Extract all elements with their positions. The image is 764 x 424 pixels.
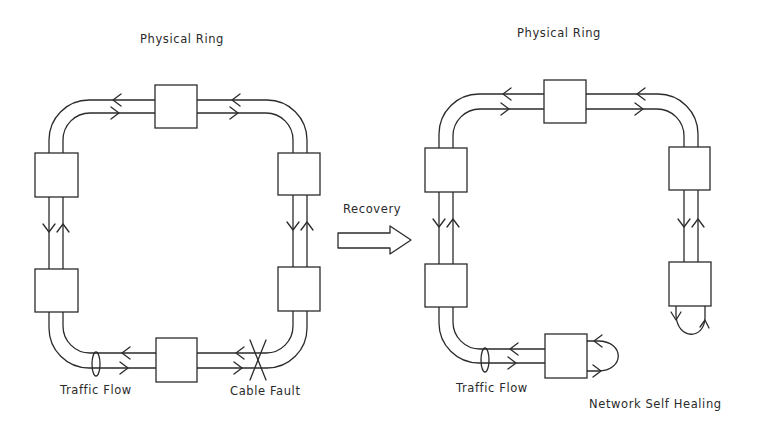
right-ring-cables — [439, 94, 705, 371]
node-left-lower — [35, 269, 78, 312]
traffic-flow-ellipse-icon — [92, 352, 100, 376]
node-left-upper — [425, 148, 467, 192]
node-right-upper — [278, 153, 320, 195]
node-right-upper — [669, 147, 710, 190]
node-bottom — [156, 338, 197, 382]
node-right-lower — [669, 262, 711, 306]
ring-recovery-diagram: Physical Ring — [0, 0, 764, 424]
recovery-label: Recovery — [343, 202, 401, 216]
traffic-flow-label: Traffic Flow — [59, 383, 132, 397]
node-right-lower — [278, 267, 320, 311]
node-top — [155, 85, 197, 128]
right-ring-nodes — [425, 80, 711, 378]
hollow-right-arrow-icon — [338, 226, 411, 254]
node-left-upper — [35, 153, 78, 197]
right-panel-title: Physical Ring — [517, 26, 601, 40]
node-top — [544, 80, 586, 123]
left-ring-cables — [49, 100, 307, 368]
left-panel-title: Physical Ring — [140, 32, 224, 46]
left-ring-arrows — [43, 94, 313, 374]
network-self-healing-label: Network Self Healing — [589, 397, 722, 411]
recovery-transition: Recovery — [338, 202, 411, 254]
node-bottom — [545, 334, 587, 378]
left-ring-panel: Physical Ring — [35, 32, 320, 398]
cable-fault-x-icon — [250, 340, 266, 380]
traffic-flow-label: Traffic Flow — [455, 381, 528, 395]
node-left-lower — [425, 264, 467, 307]
cable-fault-label: Cable Fault — [230, 384, 301, 398]
right-ring-panel: Physical Ring — [425, 26, 722, 411]
left-ring-nodes — [35, 85, 320, 382]
traffic-flow-ellipse-icon — [481, 348, 489, 372]
